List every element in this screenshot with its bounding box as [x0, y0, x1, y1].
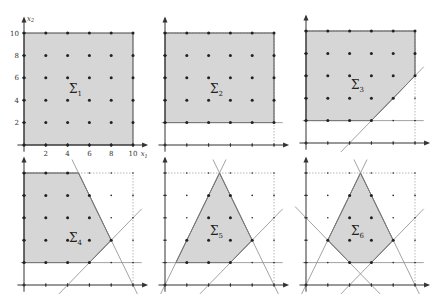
- panel-sigma-2: Σ2: [158, 16, 289, 151]
- lattice-point: [208, 144, 210, 146]
- lattice-point-feasible: [392, 239, 395, 242]
- lattice-point-feasible: [88, 32, 91, 35]
- lattice-point-feasible: [326, 74, 329, 77]
- lattice-point-feasible: [132, 54, 135, 57]
- lattice-point-feasible: [44, 172, 47, 175]
- lattice-point-feasible: [44, 144, 47, 147]
- lattice-point-feasible: [370, 261, 373, 264]
- lattice-point-feasible: [66, 32, 69, 35]
- lattice-point-feasible: [273, 54, 276, 57]
- lattice-point-feasible: [273, 32, 276, 35]
- lattice-point: [273, 144, 275, 146]
- lattice-point-feasible: [207, 216, 210, 219]
- lattice-point: [208, 284, 210, 286]
- lattice-point: [89, 284, 91, 286]
- y-axis-arrow-icon: [304, 14, 309, 20]
- lattice-point-feasible: [185, 239, 188, 242]
- panel-sigma-1: 246810246810x1x2Σ1: [10, 15, 148, 159]
- lattice-point-feasible: [207, 32, 210, 35]
- lattice-point-feasible: [207, 261, 210, 264]
- lattice-point: [251, 262, 253, 264]
- lattice-point-feasible: [23, 216, 26, 219]
- lattice-point-feasible: [88, 239, 91, 242]
- lattice-point-feasible: [229, 76, 232, 79]
- lattice-point: [327, 284, 329, 286]
- lattice-point: [251, 217, 253, 219]
- lattice-point: [164, 195, 166, 197]
- lattice-point-feasible: [305, 52, 308, 55]
- lattice-point-feasible: [207, 121, 210, 124]
- lattice-point: [392, 284, 394, 286]
- lattice-point: [251, 284, 253, 286]
- lattice-point: [305, 262, 307, 264]
- lattice-point-feasible: [251, 54, 254, 57]
- lattice-point-feasible: [207, 239, 210, 242]
- lattice-point-feasible: [326, 97, 329, 100]
- lattice-point-feasible: [370, 52, 373, 55]
- lattice-point-feasible: [88, 144, 91, 147]
- lattice-point-feasible: [23, 121, 26, 124]
- lattice-point-feasible: [229, 239, 232, 242]
- lattice-point-feasible: [88, 261, 91, 264]
- x-axis-arrow-icon: [283, 143, 289, 148]
- lattice-point-feasible: [392, 52, 395, 55]
- lattice-point: [273, 195, 275, 197]
- lattice-point-feasible: [132, 32, 135, 35]
- lattice-point-feasible: [229, 99, 232, 102]
- lattice-point: [371, 172, 373, 174]
- y-axis-arrow-icon: [22, 156, 27, 162]
- lattice-point: [414, 284, 416, 286]
- lattice-point: [327, 217, 329, 219]
- lattice-point-feasible: [392, 74, 395, 77]
- lattice-point: [273, 172, 275, 174]
- lattice-point-feasible: [44, 239, 47, 242]
- lattice-point-feasible: [164, 121, 167, 124]
- lattice-point: [305, 239, 307, 241]
- lattice-point-feasible: [132, 121, 135, 124]
- x-axis-arrow-icon: [142, 283, 148, 288]
- lattice-point-feasible: [185, 121, 188, 124]
- lattice-point: [110, 172, 112, 174]
- lattice-point: [132, 284, 134, 286]
- lattice-point: [392, 142, 394, 144]
- lattice-point: [392, 120, 394, 122]
- x-tick-label: 10: [129, 150, 138, 158]
- lattice-point: [305, 142, 307, 144]
- lattice-point: [164, 284, 166, 286]
- lattice-point-feasible: [23, 261, 26, 264]
- feasible-region: [24, 33, 133, 145]
- lattice-point-feasible: [23, 54, 26, 57]
- lattice-point: [132, 172, 134, 174]
- y-tick-label: 4: [15, 97, 20, 105]
- lattice-point: [132, 239, 134, 241]
- lattice-point-feasible: [185, 261, 188, 264]
- lattice-point-feasible: [44, 76, 47, 79]
- lattice-point: [349, 172, 351, 174]
- lattice-point-feasible: [44, 99, 47, 102]
- lattice-point-feasible: [23, 144, 26, 147]
- lattice-point-feasible: [414, 74, 417, 77]
- lattice-point: [414, 120, 416, 122]
- lattice-point-feasible: [370, 74, 373, 77]
- lattice-point: [251, 144, 253, 146]
- lattice-point-feasible: [392, 30, 395, 33]
- lattice-point-feasible: [273, 99, 276, 102]
- lattice-point-feasible: [23, 99, 26, 102]
- lattice-point-feasible: [66, 121, 69, 124]
- lattice-point-feasible: [110, 32, 113, 35]
- lattice-point: [414, 142, 416, 144]
- panel-sigma-5: Σ5: [158, 156, 289, 294]
- lattice-point-feasible: [132, 76, 135, 79]
- lattice-point-feasible: [414, 30, 417, 33]
- panel-sigma-3: Σ3: [299, 14, 430, 152]
- x-tick-label: 2: [44, 150, 48, 158]
- lattice-point-feasible: [44, 32, 47, 35]
- lattice-point-feasible: [23, 194, 26, 197]
- x-axis-label: x1: [141, 150, 148, 159]
- lattice-point-feasible: [229, 216, 232, 219]
- lattice-point-feasible: [348, 194, 351, 197]
- lattice-point-feasible: [251, 99, 254, 102]
- lattice-point: [164, 262, 166, 264]
- x-axis-arrow-icon: [142, 143, 148, 148]
- lattice-point-feasible: [229, 121, 232, 124]
